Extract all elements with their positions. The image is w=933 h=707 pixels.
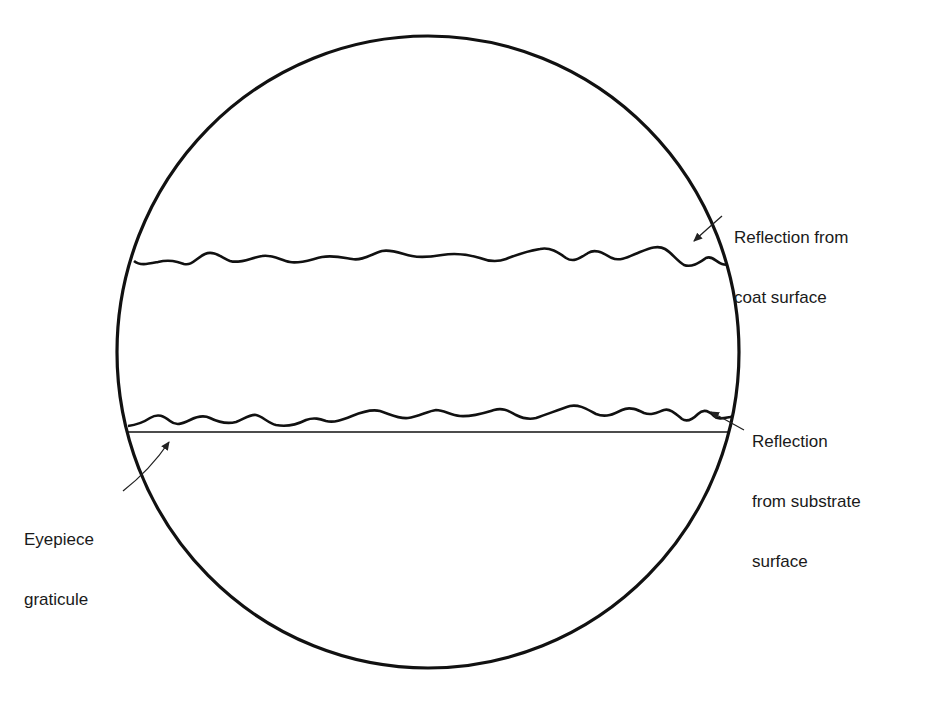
substrate-surface-reflection [128,406,742,426]
field-of-view-circle [117,36,739,668]
coat-surface-reflection [134,247,740,266]
coat-label-line-1: Reflection from [734,228,848,248]
coat-label-line-2: coat surface [734,288,848,308]
substrate-label-line-2: from substrate [752,492,861,512]
microscope-field-diagram [0,0,933,707]
graticule-label-line-2: graticule [24,590,94,610]
eyepiece-graticule-label: Eyepiece graticule [24,490,94,630]
substrate-label-line-1: Reflection [752,432,861,452]
coat-reflection-label: Reflection from coat surface [734,188,848,328]
substrate-reflection-label: Reflection from substrate surface [752,392,861,592]
substrate-label-line-3: surface [752,552,861,572]
graticule-label-line-1: Eyepiece [24,530,94,550]
substrate-label-arrow [711,412,744,430]
